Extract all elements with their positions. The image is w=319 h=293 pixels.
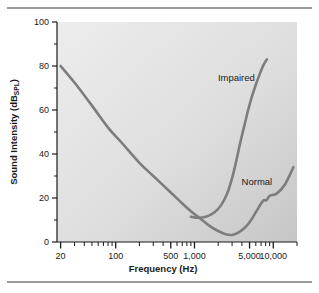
- y-axis-tick-label: 100: [34, 17, 49, 27]
- y-axis-title-suffix: ): [8, 79, 19, 82]
- y-axis-tick-label: 40: [39, 149, 49, 159]
- y-axis-tick-label: 0: [44, 237, 49, 247]
- x-axis-tick-label: 20: [56, 251, 66, 261]
- y-axis-tick-label: 80: [39, 61, 49, 71]
- x-axis-tick-label: 1,000: [183, 251, 206, 261]
- x-axis-tick-label: 10,000: [260, 251, 288, 261]
- plot-background: [57, 22, 297, 242]
- series-label-normal: Normal: [242, 176, 273, 187]
- x-axis: 201005001,0005,00010,000: [56, 242, 297, 261]
- y-axis-tick-label: 60: [39, 105, 49, 115]
- y-axis-title-group: Sound Intensity (dBSPL): [8, 79, 20, 185]
- x-axis-title: Frequency (Hz): [129, 263, 198, 274]
- y-axis-title-main: Sound Intensity (dB: [8, 95, 19, 185]
- y-axis: 020406080100: [34, 17, 57, 247]
- svg-text:Sound Intensity (dBSPL): Sound Intensity (dBSPL): [8, 79, 20, 185]
- chart-canvas: 020406080100 201005001,0005,00010,000 No…: [0, 0, 319, 293]
- y-axis-tick-label: 20: [39, 193, 49, 203]
- x-axis-tick-label: 500: [163, 251, 178, 261]
- y-axis-title-subscript: SPL: [13, 82, 20, 95]
- series-label-impaired: Impaired: [218, 72, 255, 83]
- x-axis-tick-label: 5,000: [238, 251, 261, 261]
- figure-container: 020406080100 201005001,0005,00010,000 No…: [0, 0, 319, 293]
- x-axis-tick-label: 100: [108, 251, 123, 261]
